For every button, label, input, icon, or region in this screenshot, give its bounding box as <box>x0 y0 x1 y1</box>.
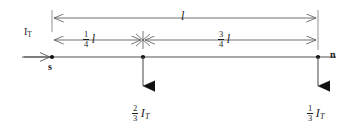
load-current-subscript: T <box>320 112 324 121</box>
fraction-numerator: 1 <box>307 104 313 113</box>
fraction-numerator: 2 <box>132 104 138 113</box>
load-label-n: 1 3 IT <box>307 104 325 123</box>
load-current-symbol: IT <box>316 106 325 121</box>
load-label-mid: 2 3 IT <box>132 104 150 123</box>
fraction-unit: l <box>227 32 230 47</box>
fraction-denominator: 4 <box>218 39 224 49</box>
dimension-label-second-segment: 3 4 l <box>218 30 230 49</box>
fraction-two-thirds: 2 3 <box>132 104 138 123</box>
diagram-svg <box>0 0 349 133</box>
source-current-label: IT <box>24 27 32 38</box>
source-current-subscript: T <box>27 30 32 39</box>
load-current-symbol: IT <box>141 106 150 121</box>
fraction-denominator: 3 <box>307 113 313 123</box>
fraction-unit: l <box>92 32 95 47</box>
fraction-denominator: 4 <box>83 39 89 49</box>
diagram-canvas: IT s n l 1 4 l 3 4 l 2 3 IT 1 3 IT <box>0 0 349 133</box>
fraction-numerator: 1 <box>83 30 89 39</box>
fraction-one-third: 1 3 <box>307 104 313 123</box>
node-label-n: n <box>330 50 336 60</box>
fraction-denominator: 3 <box>132 113 138 123</box>
fraction-numerator: 3 <box>218 30 224 39</box>
load-current-subscript: T <box>145 112 149 121</box>
dimension-label-first-segment: 1 4 l <box>83 30 95 49</box>
dimension-label-total-length: l <box>181 10 184 22</box>
fraction-one-quarter: 1 4 <box>83 30 89 49</box>
node-label-s: s <box>48 62 52 72</box>
fraction-three-quarters: 3 4 <box>218 30 224 49</box>
